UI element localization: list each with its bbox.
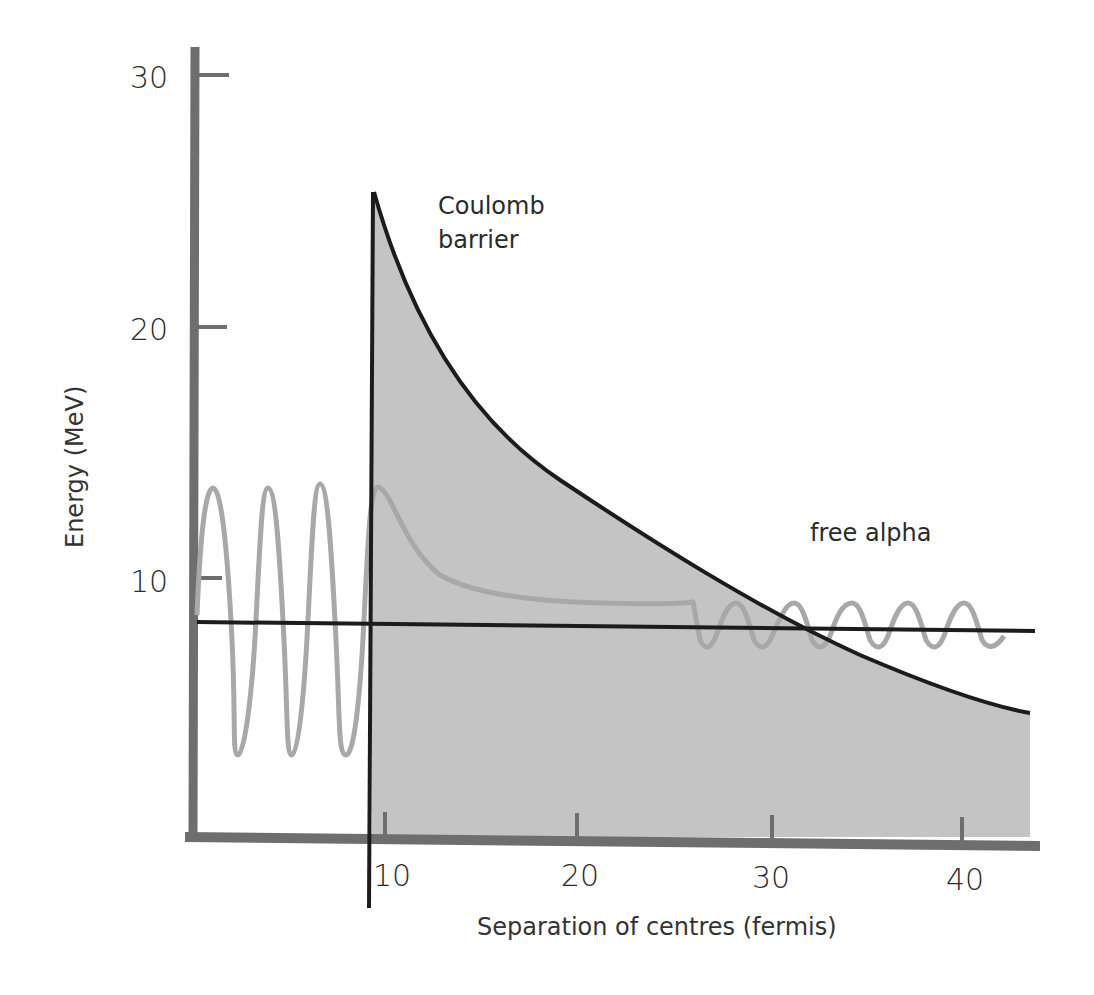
y-tick-label-10: 10 — [130, 564, 168, 599]
y-axis-line — [193, 47, 195, 840]
x-tick-label-20: 20 — [561, 858, 599, 893]
y-axis-title: Energy (MeV) — [61, 386, 89, 548]
x-axis-title: Separation of centres (fermis) — [477, 913, 837, 941]
coulomb-barrier-label-line1: Coulomb — [438, 192, 545, 220]
free-alpha-label: free alpha — [810, 519, 931, 547]
barrier-shaded-region — [372, 192, 1030, 837]
x-tick-label-30: 30 — [752, 860, 790, 895]
y-tick-label-20: 20 — [130, 312, 168, 347]
energy-barrier-chart: 30 20 10 10 20 30 40 Separation of centr… — [0, 0, 1094, 995]
x-axis-line — [185, 837, 1040, 846]
y-tick-label-30: 30 — [130, 60, 168, 95]
coulomb-barrier-label-line2: barrier — [438, 226, 519, 254]
x-tick-label-10: 10 — [373, 858, 411, 893]
x-tick-label-40: 40 — [946, 862, 984, 897]
